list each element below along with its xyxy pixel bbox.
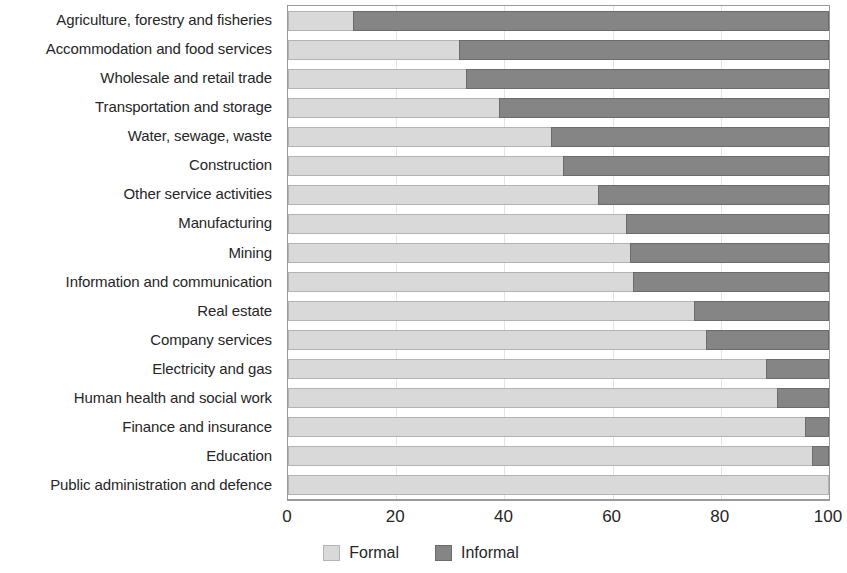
bar-segment-formal <box>288 185 598 205</box>
category-label: Accommodation and food services <box>0 40 272 57</box>
bar-row <box>288 69 829 89</box>
legend-item[interactable]: Formal <box>323 544 399 562</box>
category-label: Education <box>0 447 272 464</box>
category-label: Public administration and defence <box>0 476 272 493</box>
category-label: Real estate <box>0 302 272 319</box>
bar-segment-formal <box>288 272 633 292</box>
bar-segment-formal <box>288 214 626 234</box>
category-label: Wholesale and retail trade <box>0 69 272 86</box>
bar-segment-informal <box>466 69 829 89</box>
bar-segment-informal <box>353 11 829 31</box>
chart-legend: FormalInformal <box>0 544 842 562</box>
category-label: Transportation and storage <box>0 98 272 115</box>
bar-segment-formal <box>288 330 706 350</box>
bar-segment-informal <box>706 330 829 350</box>
bar-row <box>288 214 829 234</box>
bar-segment-informal <box>499 98 829 118</box>
bar-segment-informal <box>598 185 829 205</box>
bar-segment-formal <box>288 417 805 437</box>
bar-segment-formal <box>288 475 829 495</box>
bar-row <box>288 417 829 437</box>
category-label: Agriculture, forestry and fisheries <box>0 11 272 28</box>
bar-row <box>288 127 829 147</box>
bar-row <box>288 446 829 466</box>
bar-segment-informal <box>694 301 829 321</box>
bar-row <box>288 330 829 350</box>
bar-segment-informal <box>630 243 829 263</box>
x-axis-line <box>287 499 829 500</box>
bar-segment-informal <box>777 388 829 408</box>
bar-segment-informal <box>626 214 829 234</box>
bar-segment-informal <box>805 417 829 437</box>
category-label: Manufacturing <box>0 214 272 231</box>
bar-segment-formal <box>288 301 694 321</box>
legend-label: Formal <box>349 544 399 562</box>
category-label: Other service activities <box>0 185 272 202</box>
category-label: Human health and social work <box>0 389 272 406</box>
category-label: Construction <box>0 156 272 173</box>
legend-label: Informal <box>461 544 519 562</box>
x-tick-label: 80 <box>685 507 755 527</box>
bar-row <box>288 98 829 118</box>
legend-item[interactable]: Informal <box>435 544 519 562</box>
bar-segment-informal <box>459 40 829 60</box>
bar-segment-informal <box>766 359 829 379</box>
formal-swatch <box>323 545 340 561</box>
bar-segment-informal <box>551 127 829 147</box>
bar-row <box>288 11 829 31</box>
category-label: Information and communication <box>0 273 272 290</box>
bar-segment-informal <box>812 446 829 466</box>
bar-row <box>288 475 829 495</box>
bar-row <box>288 359 829 379</box>
category-label: Electricity and gas <box>0 360 272 377</box>
bar-segment-formal <box>288 98 499 118</box>
category-label: Mining <box>0 244 272 261</box>
bar-row <box>288 156 829 176</box>
bar-segment-formal <box>288 388 777 408</box>
bar-row <box>288 40 829 60</box>
bar-segment-informal <box>563 156 829 176</box>
x-tick-label: 0 <box>252 507 322 527</box>
bar-segment-formal <box>288 40 459 60</box>
bar-row <box>288 272 829 292</box>
category-label: Company services <box>0 331 272 348</box>
bar-segment-informal <box>633 272 829 292</box>
category-label: Water, sewage, waste <box>0 127 272 144</box>
bar-row <box>288 185 829 205</box>
x-tick-label: 40 <box>468 507 538 527</box>
bar-row <box>288 301 829 321</box>
x-tick-label: 20 <box>360 507 430 527</box>
bar-segment-formal <box>288 156 563 176</box>
bar-segment-formal <box>288 446 812 466</box>
informal-swatch <box>435 545 452 561</box>
category-axis-labels: Agriculture, forestry and fisheriesAccom… <box>0 5 276 499</box>
bar-segment-formal <box>288 69 466 89</box>
bar-row <box>288 243 829 263</box>
x-tick-label: 100 <box>793 507 847 527</box>
plot-area <box>287 5 830 501</box>
bar-segment-formal <box>288 11 353 31</box>
bar-row <box>288 388 829 408</box>
bar-segment-formal <box>288 243 630 263</box>
bar-segment-formal <box>288 127 551 147</box>
category-label: Finance and insurance <box>0 418 272 435</box>
x-tick-label: 60 <box>577 507 647 527</box>
bar-segment-formal <box>288 359 766 379</box>
